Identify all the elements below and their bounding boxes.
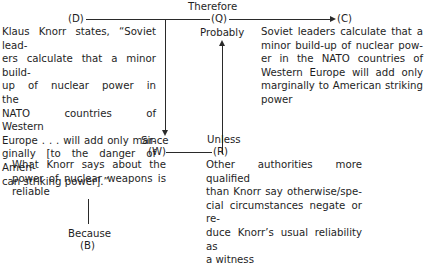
backing-label: (B) xyxy=(80,239,95,252)
claim-line: marginally to American striking xyxy=(261,79,423,93)
rebuttal-line: a witness xyxy=(206,253,362,267)
rebuttal-line: than Knorr say otherwise/spe- xyxy=(206,185,362,199)
rebuttal-line: duce Knorr’s usual reliability as xyxy=(206,226,362,253)
claim-label: (C) xyxy=(337,12,352,25)
warrant-line: What Knorr says about the xyxy=(12,158,166,172)
to-warrant-line xyxy=(165,20,166,132)
arrow-right-icon xyxy=(330,16,336,22)
arrow-up-icon xyxy=(219,40,225,46)
probably-connector: Probably xyxy=(200,26,244,39)
warrant-block: What Knorr says about the power of nucle… xyxy=(12,158,166,199)
claim-line: power xyxy=(261,93,423,107)
backing-line xyxy=(88,199,89,224)
warrant-line: power of nuclear weapons is xyxy=(12,172,166,186)
claim-line: minor build-up of nuclear pow- xyxy=(261,39,423,53)
warrant-label: (W) xyxy=(148,145,166,158)
data-line: ers calculate that a minor build- xyxy=(2,52,156,79)
rebuttal-line: Other authorities more qualified xyxy=(206,158,362,185)
qualifier-label: (Q) xyxy=(211,12,227,25)
rebuttal-block: Other authorities more qualified than Kn… xyxy=(206,158,362,267)
claim-block: Soviet leaders calculate that a minor bu… xyxy=(261,25,423,107)
claim-line: Soviet leaders calculate that a xyxy=(261,25,423,39)
data-line: NATO countries of Western xyxy=(2,107,156,134)
d-to-q-line xyxy=(86,19,210,20)
data-line: up of nuclear power in the xyxy=(2,79,156,106)
warrant-line: reliable xyxy=(12,185,166,199)
claim-line: Western Europe will add only xyxy=(261,66,423,80)
data-line: Klaus Knorr states, “Soviet lead- xyxy=(2,25,156,52)
w-to-r-line xyxy=(166,152,212,153)
data-line: Europe . . . will add only mar- xyxy=(2,134,156,148)
data-label: (D) xyxy=(68,12,84,25)
claim-line: er in the NATO countries of xyxy=(261,52,423,66)
rebuttal-label: (R) xyxy=(213,145,228,158)
rebuttal-line: cial circumstances negate or re- xyxy=(206,199,362,226)
q-to-c-line xyxy=(229,19,331,20)
